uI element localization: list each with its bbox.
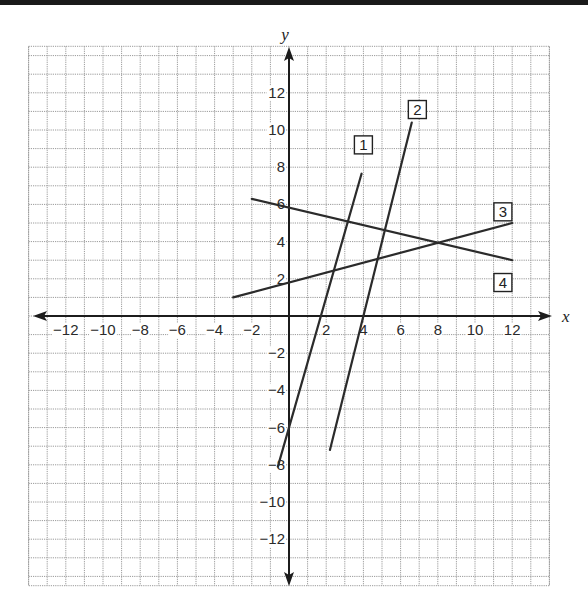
x-tick-label: 12 — [504, 321, 521, 338]
x-tick-label: −10 — [90, 321, 115, 338]
line-label-number: 2 — [413, 101, 421, 118]
y-axis-label: y — [279, 25, 289, 44]
y-tick-label: 4 — [277, 233, 285, 250]
x-tick-label: 6 — [396, 321, 404, 338]
y-tick-label: −6 — [268, 419, 285, 436]
line-label-3: 3 — [494, 203, 512, 221]
y-tick-label: 12 — [268, 84, 285, 101]
y-tick-label: −10 — [260, 493, 285, 510]
x-tick-label: −4 — [206, 321, 223, 338]
line-label-number: 1 — [359, 136, 367, 153]
y-tick-label: 10 — [268, 121, 285, 138]
x-tick-label: −12 — [53, 321, 78, 338]
y-tick-label: −4 — [268, 381, 285, 398]
y-tick-label: −12 — [260, 530, 285, 547]
y-tick-label: −2 — [268, 344, 285, 361]
x-tick-label: −8 — [132, 321, 149, 338]
line-labels: 1234 — [354, 101, 512, 292]
line-label-4: 4 — [494, 274, 512, 292]
x-tick-label: −2 — [243, 321, 260, 338]
coordinate-plane-chart: xy −12−10−8−6−4−224681012−12−10−8−6−4−22… — [0, 0, 588, 616]
line-label-number: 3 — [499, 203, 507, 220]
line-label-2: 2 — [408, 101, 426, 119]
line-1 — [278, 174, 362, 467]
line-label-number: 4 — [499, 274, 507, 291]
y-tick-label: 8 — [277, 158, 285, 175]
x-axis-label: x — [561, 307, 570, 326]
x-tick-label: 10 — [467, 321, 484, 338]
y-tick-label: −8 — [268, 456, 285, 473]
line-label-1: 1 — [354, 136, 372, 154]
x-tick-label: 2 — [322, 321, 330, 338]
line-2 — [330, 123, 412, 450]
x-tick-label: −6 — [169, 321, 186, 338]
x-tick-label: 8 — [434, 321, 442, 338]
plotted-lines — [233, 123, 512, 467]
